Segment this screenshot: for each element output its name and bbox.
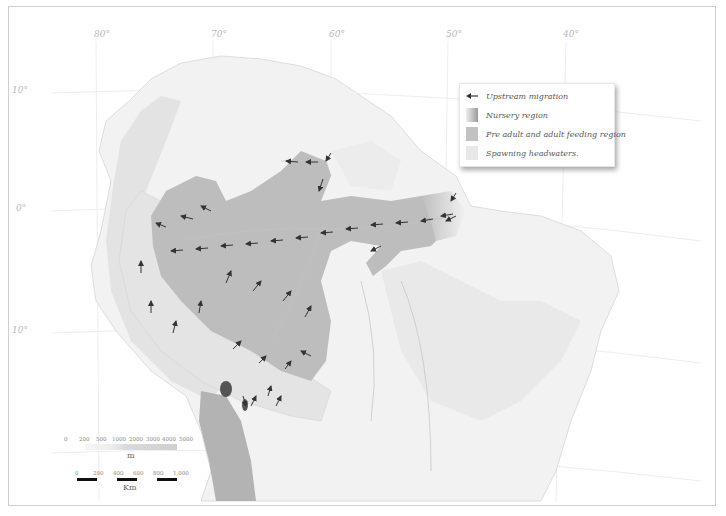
longitude-label-50: 50° [446,29,462,39]
legend-item-nursery-region: Nursery region [466,108,548,122]
spawning-swatch-icon [466,146,478,160]
lake-titicaca [220,381,232,397]
legend-item-upstream-migration: Upstream migration [466,89,568,103]
map-legend: Upstream migration Nursery region Pre ad… [459,83,615,167]
latitude-label-10n: 10° [12,85,28,95]
arrow-left-icon [466,89,478,103]
latitude-label-10s: 10° [12,325,28,335]
latitude-label-0: 0° [16,203,26,213]
legend-item-feeding-region: Pre adult and adult feeding region [466,127,626,141]
feeding-swatch-icon [466,127,478,141]
nursery-swatch-icon [466,108,478,122]
longitude-label-70: 70° [211,29,227,39]
elevation-color-bar [85,444,177,450]
longitude-label-80: 80° [94,29,110,39]
south-america-map [9,7,716,506]
legend-item-spawning-headwaters: Spawning headwaters. [466,146,579,160]
lake-poopo [242,399,248,411]
longitude-label-60: 60° [329,29,345,39]
map-frame: 80° 70° 60° 50° 40° 10° 0° 10° Upstream … [8,6,716,506]
distance-scale-bar [77,478,177,481]
longitude-label-40: 40° [563,29,579,39]
